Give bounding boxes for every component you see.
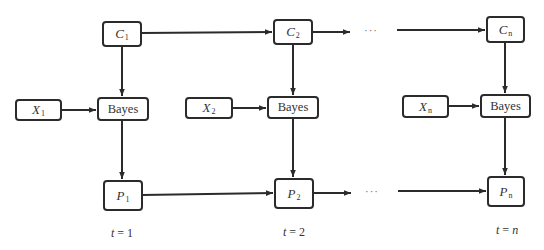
pn-symbol: P (500, 184, 508, 199)
time-eq: = (499, 223, 512, 237)
p2-subscript: 2 (296, 193, 300, 202)
node-bayes2: Bayes (267, 96, 319, 119)
c1-subscript: 1 (125, 33, 129, 42)
x1-subscript: 1 (41, 109, 45, 118)
cn-symbol: C (499, 22, 508, 37)
p1-subscript: 1 (125, 195, 129, 204)
edges-layer (0, 0, 544, 250)
xn-symbol: X (419, 99, 427, 114)
bayes1-label: Bayes (108, 102, 139, 117)
time-eq: = 2 (286, 225, 305, 239)
node-xn: Xn (402, 95, 449, 118)
c2-symbol: C (286, 24, 295, 39)
time-label-1: t = 1 (111, 226, 133, 241)
time-eq: = 1 (114, 226, 133, 240)
p2-symbol: P (288, 186, 296, 201)
node-p1: P1 (103, 180, 143, 211)
c2-subscript: 2 (296, 31, 300, 40)
cn-subscript: n (508, 29, 512, 38)
node-pn: Pn (487, 176, 525, 207)
node-x1: X1 (15, 99, 62, 121)
node-c2: C2 (273, 19, 313, 45)
node-c1: C1 (102, 21, 142, 47)
xn-subscript: n (428, 106, 432, 115)
time-val: n (512, 223, 518, 237)
node-bayes1: Bayes (97, 97, 149, 121)
ellipsis-bottom: ··· (365, 185, 379, 197)
time-label-2: t = 2 (283, 225, 305, 240)
node-x2: X2 (185, 97, 233, 119)
c1-symbol: C (115, 26, 124, 41)
bayesn-label: Bayes (490, 99, 521, 114)
time-label-n: t = n (496, 223, 518, 238)
node-cn: Cn (486, 16, 525, 43)
bayes2-label: Bayes (278, 100, 309, 115)
x2-subscript: 2 (211, 107, 215, 116)
p1-symbol: P (117, 188, 125, 203)
node-bayesn: Bayes (480, 94, 531, 118)
edge-c1-c2 (141, 32, 272, 33)
pn-subscript: n (508, 191, 512, 200)
node-p2: P2 (274, 178, 314, 209)
ellipsis-top: ··· (364, 24, 378, 36)
x2-symbol: X (203, 100, 211, 115)
edge-p1-p2 (142, 193, 273, 195)
x1-symbol: X (32, 102, 40, 117)
